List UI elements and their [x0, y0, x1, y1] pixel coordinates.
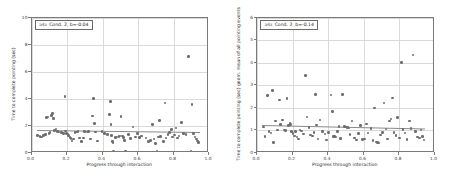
data-point	[421, 135, 424, 138]
data-point	[124, 150, 127, 151]
data-point	[391, 97, 394, 100]
data-point	[108, 113, 111, 116]
x-axis-tick	[137, 152, 138, 155]
y-axis-tick	[254, 152, 257, 153]
data-point	[89, 138, 92, 141]
data-point	[123, 139, 126, 142]
data-point	[359, 124, 362, 127]
data-point	[341, 93, 344, 96]
data-point	[106, 133, 109, 136]
data-point	[93, 122, 96, 125]
grid-line-horizontal	[32, 18, 208, 19]
x-axis-tick	[102, 152, 103, 155]
data-point	[271, 89, 274, 92]
data-point	[377, 142, 380, 145]
x-axis-tick	[292, 152, 293, 155]
data-point	[149, 139, 152, 142]
data-point	[185, 133, 188, 136]
data-point	[82, 137, 85, 140]
data-point	[274, 120, 277, 123]
x-axis-tick	[31, 152, 32, 155]
data-point	[330, 94, 333, 97]
data-point	[381, 131, 384, 134]
data-point	[190, 150, 193, 151]
scatter-figure: a4a Cond. 2, b=-0.04 Progress through in…	[0, 0, 451, 183]
x-axis-tick-label: 1.0	[204, 156, 211, 161]
y-axis-tick-label: 6	[19, 68, 28, 73]
y-axis-tick-label: 2	[19, 122, 28, 127]
data-point	[379, 134, 382, 137]
data-point	[372, 139, 375, 142]
y-axis-tick-label: 8	[19, 41, 28, 46]
data-point	[109, 100, 112, 103]
data-point	[284, 129, 287, 132]
y-axis-tick	[28, 44, 31, 45]
data-point	[112, 150, 115, 151]
data-point	[314, 93, 317, 96]
x-axis-tick-label: 0.2	[288, 156, 295, 161]
y-axis-tick-label: 0	[19, 150, 28, 155]
data-point	[355, 139, 358, 142]
panel-left: a4a Cond. 2, b=-0.04 Progress through in…	[0, 0, 226, 183]
y-axis-tick	[254, 17, 257, 18]
y-axis-tick	[254, 39, 257, 40]
grid-line-horizontal	[32, 45, 208, 46]
data-point	[386, 138, 389, 141]
data-point	[192, 132, 195, 135]
y-axis-tick-label: 10	[19, 14, 28, 19]
data-point	[404, 132, 407, 135]
data-point	[414, 130, 417, 133]
data-point	[306, 116, 309, 119]
y-axis-tick	[28, 98, 31, 99]
x-axis-tick	[208, 152, 209, 155]
legend-marker-icon: a4a	[264, 23, 272, 28]
data-point	[187, 55, 190, 58]
x-axis-tick	[327, 152, 328, 155]
data-point	[87, 130, 90, 133]
y-axis-tick-label: 4	[19, 95, 28, 100]
data-point	[156, 150, 159, 151]
grid-line-horizontal	[257, 63, 433, 64]
data-point	[357, 132, 360, 135]
data-point	[64, 95, 67, 98]
y-axis-tick	[254, 107, 257, 108]
data-point	[304, 74, 307, 77]
data-point	[52, 117, 55, 120]
data-point	[164, 102, 167, 105]
data-point	[78, 137, 81, 140]
data-point	[49, 131, 52, 134]
data-point	[127, 133, 130, 136]
y-axis-tick-label: 6	[244, 14, 253, 19]
grid-line-horizontal	[257, 18, 433, 19]
data-point	[396, 116, 399, 119]
data-point	[402, 128, 405, 131]
data-point	[158, 119, 161, 122]
data-point	[129, 137, 132, 140]
data-point	[197, 141, 200, 144]
panel-right: a4a Cond. 2, b=-0.14 Progress through in…	[226, 0, 451, 183]
x-axis-label-right: Progress through interaction	[312, 162, 377, 167]
data-point	[348, 127, 351, 130]
x-axis-tick-label: 1.0	[430, 156, 437, 161]
y-axis-tick	[254, 129, 257, 130]
y-axis-tick	[254, 84, 257, 85]
data-point	[383, 102, 386, 105]
data-point	[331, 110, 334, 113]
x-axis-tick-label: 0.4	[323, 156, 330, 161]
x-axis-tick-label: 0.6	[133, 156, 140, 161]
x-axis-tick	[256, 152, 257, 155]
data-point	[154, 142, 157, 145]
data-point	[264, 135, 267, 138]
data-point	[276, 129, 279, 132]
data-point	[339, 137, 342, 140]
legend-label-left: Cond. 2, b=-0.04	[49, 23, 88, 28]
data-point	[180, 121, 183, 124]
grid-line-horizontal	[32, 72, 208, 73]
grid-line-horizontal	[257, 85, 433, 86]
data-point	[325, 139, 328, 142]
data-point	[351, 120, 354, 123]
data-point	[110, 123, 113, 126]
data-point	[395, 134, 398, 137]
data-point	[388, 120, 391, 123]
x-axis-tick-label: 0.0	[252, 156, 259, 161]
